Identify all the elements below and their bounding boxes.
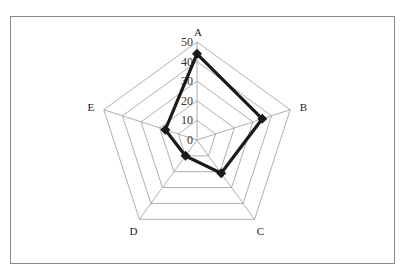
tick-label: 20 [181, 94, 193, 108]
category-label-e: E [88, 101, 95, 113]
category-label-a: A [194, 26, 202, 38]
category-label-b: B [300, 101, 307, 113]
data-series [160, 49, 267, 179]
axis-spoke [197, 140, 255, 219]
tick-label: 10 [181, 113, 193, 127]
axis-spoke [139, 140, 197, 219]
radar-chart: 01020304050 ABCDE [0, 0, 408, 278]
axis-spoke [197, 110, 290, 140]
category-label-c: C [257, 225, 264, 237]
tick-label: 0 [187, 133, 193, 147]
tick-label: 50 [181, 35, 193, 49]
category-label-d: D [130, 225, 138, 237]
radar-spokes [104, 42, 290, 219]
